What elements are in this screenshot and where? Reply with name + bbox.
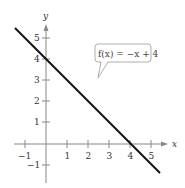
y-axis-arrow-icon xyxy=(44,24,49,31)
y-tick-labels: 5 4 3 2 1 −1 xyxy=(27,33,40,170)
svg-text:1: 1 xyxy=(65,151,71,161)
x-axis-label: x xyxy=(172,139,177,149)
svg-text:4: 4 xyxy=(34,54,40,64)
svg-text:−1: −1 xyxy=(27,160,40,170)
function-callout: f(x) = −x + 4 xyxy=(95,44,159,78)
svg-text:4: 4 xyxy=(128,151,134,161)
svg-text:2: 2 xyxy=(86,151,92,161)
svg-text:5: 5 xyxy=(34,33,40,43)
x-axis-arrow-icon xyxy=(161,142,168,147)
function-label: f(x) = −x + 4 xyxy=(98,49,159,59)
svg-text:5: 5 xyxy=(149,151,155,161)
svg-text:3: 3 xyxy=(34,75,40,85)
y-axis-label: y xyxy=(42,11,49,21)
svg-text:2: 2 xyxy=(34,96,40,106)
svg-text:1: 1 xyxy=(34,117,40,127)
function-graph: x y −1 1 2 3 4 5 5 4 3 2 1 −1 xyxy=(0,0,185,188)
svg-text:3: 3 xyxy=(107,151,113,161)
